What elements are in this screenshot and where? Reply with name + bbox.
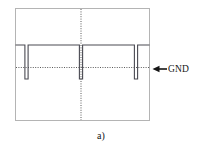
left-arrow-icon (153, 66, 168, 72)
figure-container: GND a) (0, 0, 202, 157)
figure-caption: a) (0, 130, 202, 141)
ground-annotation-label: GND (168, 64, 189, 75)
